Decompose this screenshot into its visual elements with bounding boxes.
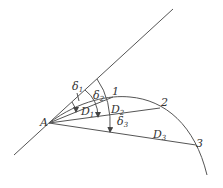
point-3-label: 3 (196, 137, 203, 150)
chord-d1-label: D1 (80, 105, 94, 119)
point-a-label: A (39, 116, 48, 129)
deflection-angle-diagram: A 1 2 3 D1 D2 D3 δ1 δ2 δ3 (0, 0, 223, 188)
curve-arc (49, 97, 207, 175)
angle-delta2-label: δ2 (93, 89, 105, 103)
chord-d2 (49, 108, 160, 123)
angle-delta3-label: δ3 (117, 115, 129, 129)
angle-arc-delta3 (97, 79, 110, 132)
chord-d3-label: D3 (152, 128, 167, 142)
point-2-label: 2 (160, 96, 168, 109)
point-1-label: 1 (112, 85, 119, 98)
angle-delta1-label: δ1 (72, 80, 83, 94)
tangent-line (14, 9, 173, 155)
